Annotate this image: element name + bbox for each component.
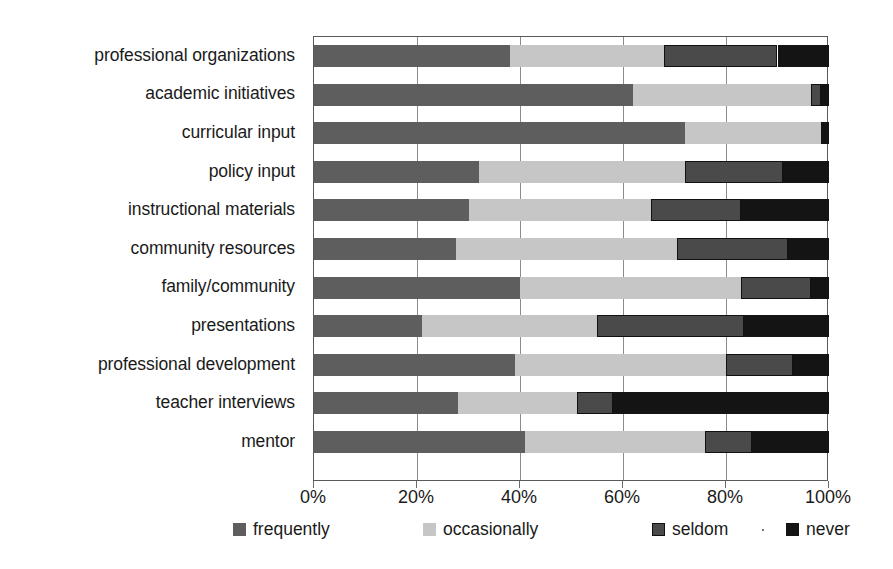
y-axis-label-row: presentations	[0, 306, 305, 345]
x-axis-tick-label-40%: 40%	[501, 487, 537, 508]
bar-segment-family-community-seldom[interactable]	[741, 277, 811, 299]
bar-track	[314, 122, 827, 144]
bar-segment-policy-input-frequently[interactable]	[314, 161, 479, 183]
y-axis-label-professional-organizations: professional organizations	[94, 45, 295, 66]
bar-segment-mentor-occasionally[interactable]	[525, 431, 705, 453]
bar-segment-professional-development-seldom[interactable]	[726, 354, 793, 376]
legend-separator-dot-icon	[762, 529, 764, 531]
y-axis-label-curricular-input: curricular input	[182, 122, 295, 143]
bar-segment-professional-organizations-occasionally[interactable]	[510, 45, 665, 67]
y-axis-label-row: curricular input	[0, 113, 305, 152]
bar-track	[314, 392, 827, 414]
bar-segment-professional-organizations-seldom[interactable]	[664, 45, 777, 67]
bar-segment-mentor-frequently[interactable]	[314, 431, 525, 453]
x-axis-tick-label-0%: 0%	[300, 487, 326, 508]
legend-label-seldom: seldom	[672, 521, 728, 539]
y-axis-label-professional-development: professional development	[98, 354, 295, 375]
bar-segment-curricular-input-never[interactable]	[821, 122, 829, 144]
y-axis-label-mentor: mentor	[241, 431, 295, 452]
bar-segment-instructional-materials-seldom[interactable]	[651, 199, 741, 221]
bar-segment-curricular-input-frequently[interactable]	[314, 122, 685, 144]
x-axis-tick-label-100%: 100%	[805, 487, 851, 508]
bar-segment-professional-development-occasionally[interactable]	[515, 354, 726, 376]
legend-swatch-occasionally-icon	[423, 523, 436, 536]
y-axis-label-instructional-materials: instructional materials	[128, 199, 295, 220]
y-axis-label-row: academic initiatives	[0, 75, 305, 114]
bar-segment-mentor-never[interactable]	[752, 431, 829, 453]
y-axis-label-presentations: presentations	[191, 315, 295, 336]
bar-row-community-resources	[314, 230, 827, 269]
y-axis-label-row: professional development	[0, 345, 305, 384]
bar-segment-community-resources-occasionally[interactable]	[456, 238, 677, 260]
bar-segment-policy-input-seldom[interactable]	[685, 161, 783, 183]
legend-label-never: never	[806, 521, 850, 539]
bar-segment-instructional-materials-never[interactable]	[741, 199, 829, 221]
plot-area	[313, 36, 828, 481]
x-axis-tick-labels: 0%20%40%60%80%100%	[0, 487, 893, 515]
bar-segment-academic-initiatives-seldom[interactable]	[811, 84, 821, 106]
y-axis-label-teacher-interviews: teacher interviews	[156, 392, 295, 413]
y-axis-label-row: policy input	[0, 152, 305, 191]
x-axis-tick-label-80%: 80%	[707, 487, 743, 508]
bar-segment-community-resources-never[interactable]	[788, 238, 829, 260]
bar-segment-academic-initiatives-frequently[interactable]	[314, 84, 633, 106]
bar-segment-teacher-interviews-never[interactable]	[613, 392, 829, 414]
bar-segment-professional-development-never[interactable]	[793, 354, 829, 376]
legend-item-seldom[interactable]: seldom	[652, 521, 728, 539]
bar-track	[314, 84, 827, 106]
bar-segment-professional-organizations-never[interactable]	[778, 45, 830, 67]
bar-segment-teacher-interviews-occasionally[interactable]	[458, 392, 576, 414]
bar-segment-professional-organizations-frequently[interactable]	[314, 45, 510, 67]
bar-segment-family-community-never[interactable]	[811, 277, 829, 299]
legend-item-frequently[interactable]: frequently	[233, 521, 330, 539]
legend-item-never[interactable]: never	[786, 521, 850, 539]
y-axis-label-row: mentor	[0, 422, 305, 461]
bar-row-presentations	[314, 307, 827, 346]
bar-track	[314, 161, 827, 183]
legend-label-frequently: frequently	[253, 521, 330, 539]
legend-swatch-frequently-icon	[233, 523, 246, 536]
bar-track	[314, 238, 827, 260]
bar-track	[314, 431, 827, 453]
bar-row-academic-initiatives	[314, 76, 827, 115]
bar-track	[314, 199, 827, 221]
bar-track	[314, 315, 827, 337]
y-axis-label-policy-input: policy input	[209, 161, 295, 182]
y-axis-label-family-community: family/community	[161, 276, 295, 297]
bar-segment-family-community-frequently[interactable]	[314, 277, 520, 299]
bar-segment-professional-development-frequently[interactable]	[314, 354, 515, 376]
bar-segment-mentor-seldom[interactable]	[705, 431, 751, 453]
y-axis-label-row: family/community	[0, 268, 305, 307]
legend-swatch-never-icon	[786, 523, 799, 536]
bar-segment-instructional-materials-occasionally[interactable]	[469, 199, 652, 221]
y-axis-category-labels: professional organizations academic init…	[0, 36, 305, 481]
x-axis-tick-label-60%: 60%	[604, 487, 640, 508]
bar-segment-policy-input-occasionally[interactable]	[479, 161, 685, 183]
bar-segment-policy-input-never[interactable]	[783, 161, 829, 183]
bar-track	[314, 354, 827, 376]
bar-segment-community-resources-frequently[interactable]	[314, 238, 456, 260]
bar-segment-teacher-interviews-seldom[interactable]	[577, 392, 613, 414]
legend-label-occasionally: occasionally	[443, 521, 538, 539]
bar-segment-instructional-materials-frequently[interactable]	[314, 199, 469, 221]
bar-segment-presentations-seldom[interactable]	[597, 315, 744, 337]
bar-row-instructional-materials	[314, 191, 827, 230]
bar-segment-academic-initiatives-occasionally[interactable]	[633, 84, 811, 106]
y-axis-label-row: instructional materials	[0, 190, 305, 229]
bar-track	[314, 277, 827, 299]
bar-segment-presentations-frequently[interactable]	[314, 315, 422, 337]
bar-row-professional-development	[314, 346, 827, 385]
y-axis-label-row: professional organizations	[0, 36, 305, 75]
bar-segment-family-community-occasionally[interactable]	[520, 277, 741, 299]
chart-legend: frequentlyoccasionallyseldomnever	[0, 521, 893, 551]
bar-segment-teacher-interviews-frequently[interactable]	[314, 392, 458, 414]
bar-segment-community-resources-seldom[interactable]	[677, 238, 788, 260]
bar-segment-presentations-never[interactable]	[744, 315, 829, 337]
legend-item-occasionally[interactable]: occasionally	[423, 521, 538, 539]
bar-segment-academic-initiatives-never[interactable]	[821, 84, 829, 106]
y-axis-label-academic-initiatives: academic initiatives	[145, 83, 295, 104]
bar-row-curricular-input	[314, 114, 827, 153]
bar-segment-curricular-input-occasionally[interactable]	[685, 122, 821, 144]
bar-row-professional-organizations	[314, 37, 827, 76]
bar-segment-presentations-occasionally[interactable]	[422, 315, 597, 337]
